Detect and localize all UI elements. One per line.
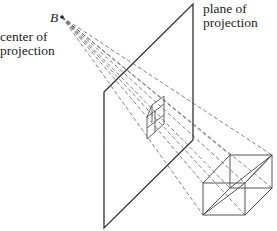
projected-cube-image xyxy=(147,96,164,139)
plane-label-line2: projection xyxy=(203,16,258,29)
point-b-label: B xyxy=(50,11,58,24)
center-point xyxy=(60,15,64,19)
center-label-line1: center of xyxy=(0,30,48,43)
perspective-projection-diagram: B center of projection plane of projecti… xyxy=(0,0,277,231)
plane-label-line1: plane of xyxy=(203,2,247,15)
center-label-line2: projection xyxy=(0,44,55,57)
cube-object xyxy=(203,155,272,215)
projection-rays xyxy=(62,17,272,215)
